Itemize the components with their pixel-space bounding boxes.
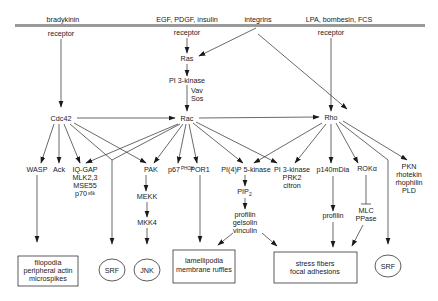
svg-text:vinculin: vinculin [233, 226, 257, 235]
edge-rac-p67 [178, 124, 186, 163]
node-mkk4: MKK4 [137, 218, 157, 227]
ligand-bradykinin: bradykinin [47, 15, 80, 24]
node-rac: Rac [181, 114, 194, 123]
node-p140mdia: p140mDia [317, 165, 350, 174]
receptor-egf: receptor [174, 28, 201, 37]
svg-text:p67: p67 [168, 165, 180, 174]
svg-text:PLD: PLD [402, 186, 416, 195]
edge-cdc42-wasp [41, 124, 54, 163]
edge-rac-pi4p5k [193, 123, 243, 163]
edge-rho-srf [339, 122, 388, 160]
receptor-bradykinin: receptor [48, 29, 75, 38]
svg-text:JNK: JNK [140, 266, 154, 275]
node-pip2: PIP 2 [237, 187, 252, 197]
edge-mlc-stress [352, 225, 363, 246]
node-cdc42: Cdc42 [51, 114, 72, 123]
edge-rac-rho [199, 117, 319, 118]
node-pak: PAK [144, 165, 158, 174]
svg-text:focal adhesions: focal adhesions [290, 267, 340, 276]
edge-rho-rok [336, 123, 358, 163]
node-wasp: WASP [27, 165, 48, 174]
node-por1: POR1 [190, 165, 210, 174]
node-pi3k-group: PI 3-kinase PRK2 citron [274, 165, 310, 190]
node-ack: Ack [53, 165, 65, 174]
edge-profilin-stress-fibers [262, 233, 277, 246]
node-sos: Sos [191, 94, 204, 103]
edge-rho-pi4p5k [254, 123, 322, 163]
edge-integrins-ras [199, 28, 256, 56]
svg-text:lamellipodia: lamellipodia [185, 256, 223, 265]
outcome-srf-left: SRF [99, 259, 125, 281]
node-pi4p-5-kinase: PI(4)P 5-kinase [221, 165, 270, 174]
node-ras: Ras [181, 54, 194, 63]
edge-cdc42-pak [74, 123, 146, 163]
node-profilin-group: profilin gelsolin vinculin [233, 210, 257, 235]
ligand-lpa: LPA, bombesin, FCS [306, 15, 373, 24]
svg-text:s6k: s6k [88, 191, 96, 196]
outcome-srf-right: SRF [375, 255, 401, 277]
svg-text:SRF: SRF [381, 262, 396, 271]
edge-cdc42-iqgap [64, 124, 80, 163]
node-profilin: profilin [322, 211, 343, 220]
edge-rac-iqgap [86, 124, 178, 163]
outcome-stress-fibers: stress fibers focal adhesions [274, 252, 357, 283]
edge-integrins-rho [258, 34, 347, 109]
node-pkn-group: PKN rhotekin rhophilin PLD [395, 162, 422, 195]
edge-rho-pkn [343, 121, 407, 160]
node-mekk: MEKK [137, 192, 158, 201]
node-mlc-ppase: MLC PPase [355, 206, 376, 223]
node-rok-alpha: ROKα [357, 164, 377, 173]
svg-text:2: 2 [249, 191, 252, 197]
node-iqgap-group: IQ-GAP MLK2,3 MSE55 p70 s6k [72, 165, 97, 198]
outcome-lamellipodia: lamellipodia membrane ruffles [173, 250, 235, 283]
edge-profilin-lamellipodia [218, 233, 233, 245]
node-rho: Rho [324, 113, 337, 122]
ligand-growth-factors: EGF, PDGF, insulin [156, 15, 218, 24]
svg-text:PPase: PPase [355, 214, 376, 223]
svg-text:SRF: SRF [105, 266, 120, 275]
svg-text:membrane ruffles: membrane ruffles [176, 265, 232, 274]
node-pi3-kinase: PI 3-kinase [169, 76, 205, 85]
outcome-filopodia: filopodia peripheral actin microspikes [18, 256, 78, 286]
outcome-jnk: JNK [134, 259, 160, 281]
edge-rac-por1 [189, 124, 197, 163]
ligand-integrins: integrins [244, 15, 272, 24]
svg-text:citron: citron [283, 181, 301, 190]
svg-text:PIP: PIP [237, 187, 249, 196]
svg-text:p70: p70 [75, 189, 87, 198]
receptor-lpa: receptor [318, 28, 345, 37]
svg-text:microspikes: microspikes [29, 274, 67, 283]
signaling-pathway-diagram: bradykinin EGF, PDGF, insulin integrins … [0, 0, 438, 301]
